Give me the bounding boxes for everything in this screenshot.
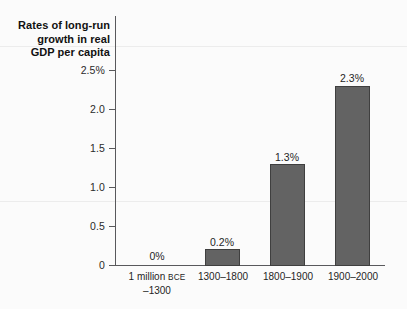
y-tick-1: [109, 226, 115, 227]
x-category-label-0-text: 1 million: [129, 271, 166, 282]
y-tick-3: [109, 148, 115, 149]
y-tick-4: [109, 109, 115, 110]
y-tick-label-3: 1.5: [5, 142, 105, 154]
y-tick-5: [109, 70, 115, 71]
bar-1300-1800: [205, 249, 240, 266]
bar-1900-2000: [335, 86, 370, 266]
y-tick-label-0: 0: [5, 259, 105, 271]
chart-page: Rates of long-run growth in real GDP per…: [0, 0, 407, 309]
x-category-label-1: 1300–1800: [187, 271, 259, 284]
y-tick-label-2: 1.0: [5, 181, 105, 193]
y-tick-label-1: 0.5: [5, 220, 105, 232]
y-tick-0: [109, 265, 115, 266]
chart-title-line-1: Rates of long-run: [0, 19, 110, 33]
y-tick-2: [109, 187, 115, 188]
x-category-label-0-line-1: 1 million BCE: [117, 271, 197, 285]
x-category-label-0-line-2: –1300: [117, 285, 197, 298]
bar-value-3: 2.3%: [322, 72, 382, 84]
y-tick-label-4: 2.0: [5, 103, 105, 115]
bar-value-0: 0%: [127, 250, 187, 262]
bar-1800-1900: [270, 164, 305, 266]
bar-value-2: 1.3%: [257, 151, 317, 163]
y-tick-label-5: 2.5%: [5, 64, 105, 76]
y-axis-line: [115, 16, 116, 266]
x-category-label-2: 1800–1900: [252, 271, 324, 284]
x-category-label-0-era: BCE: [168, 273, 185, 282]
x-category-label-3: 1900–2000: [317, 271, 389, 284]
chart-title: Rates of long-run growth in real GDP per…: [0, 19, 110, 60]
chart-title-line-2: growth in real: [0, 33, 110, 47]
x-category-label-0: 1 million BCE –1300: [117, 271, 197, 297]
bar-value-1: 0.2%: [192, 236, 252, 248]
bar-chart: Rates of long-run growth in real GDP per…: [0, 0, 407, 309]
chart-title-line-3: GDP per capita: [0, 46, 110, 60]
